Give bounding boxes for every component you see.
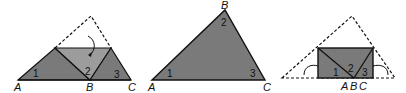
fold-arrow-left-icon xyxy=(304,65,318,75)
vertex-c-label: C xyxy=(263,81,271,93)
angle-2-label: 2 xyxy=(221,17,227,28)
vertex-a-label: A xyxy=(340,80,348,92)
angle-3-label: 3 xyxy=(250,68,256,79)
angle-2-label: 2 xyxy=(348,63,354,74)
figure-folded-rectangle: 1 2 3 A B C xyxy=(282,16,395,92)
vertex-b-label: B xyxy=(350,80,357,92)
angle-2-label: 2 xyxy=(85,66,91,77)
diagram-canvas: 1 2 3 A B C 1 2 3 A B C 1 2 3 A B C xyxy=(0,0,406,93)
vertex-b-label: B xyxy=(221,0,228,11)
vertex-c-label: C xyxy=(359,80,367,92)
dashed-original-apex xyxy=(55,16,111,48)
figure-original-triangle: 1 2 3 A B C xyxy=(147,0,271,93)
figure-fold-step: 1 2 3 A B C xyxy=(13,16,136,93)
vertex-a-label: A xyxy=(13,81,21,93)
vertex-a-label: A xyxy=(147,81,155,93)
angle-3-label: 3 xyxy=(362,67,368,78)
angle-3-label: 3 xyxy=(114,69,120,80)
angle-1-label: 1 xyxy=(33,68,39,79)
vertex-b-label: B xyxy=(86,81,93,93)
vertex-c-label: C xyxy=(128,81,136,93)
angle-1-label: 1 xyxy=(333,67,339,78)
fold-arrow-right-icon xyxy=(373,65,388,75)
angle-1-label: 1 xyxy=(167,68,173,79)
